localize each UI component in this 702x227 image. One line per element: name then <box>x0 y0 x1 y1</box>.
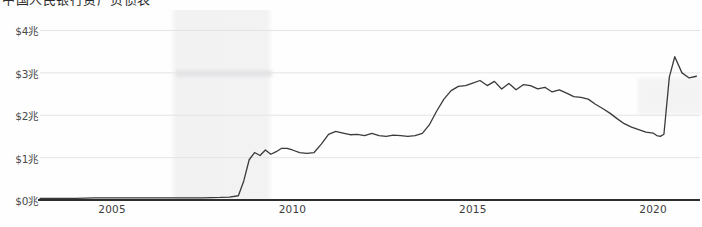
data-series-group <box>40 57 696 199</box>
y-axis-tick-label: $1兆 <box>0 151 38 166</box>
x-axis-tick-label: 2015 <box>443 203 503 215</box>
y-axis-tick-label: $3兆 <box>0 66 38 81</box>
x-axis-tick-label: 2020 <box>623 203 683 215</box>
y-axis: $4兆$3兆$2兆$1兆$0兆 <box>0 0 38 227</box>
x-axis-tick-label: 2005 <box>82 203 142 215</box>
data-series-line <box>40 57 696 199</box>
x-axis-tick-label: 2010 <box>262 203 322 215</box>
gridlines <box>40 30 700 157</box>
y-axis-tick-label: $4兆 <box>0 23 38 38</box>
plot-area <box>0 0 702 227</box>
y-axis-tick-label: $0兆 <box>0 193 38 208</box>
chart-figure: 中国人民银行资产负债表 $4兆$3兆$2兆$1兆$0兆 200520102015… <box>0 0 702 227</box>
y-axis-tick-label: $2兆 <box>0 108 38 123</box>
